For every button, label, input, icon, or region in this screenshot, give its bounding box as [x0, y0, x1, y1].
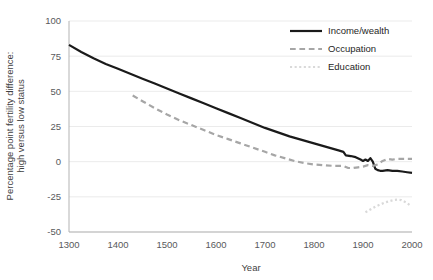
x-tick-label-1700: 1700 — [254, 239, 275, 250]
x-tick-label-2000: 2000 — [401, 239, 422, 250]
legend-label-occupation: Occupation — [328, 43, 376, 54]
y-tick-labels-group: -50-250255075100 — [45, 15, 61, 237]
y-tick-label--50: -50 — [47, 226, 61, 237]
x-tick-label-1800: 1800 — [303, 239, 324, 250]
y-tick-label-25: 25 — [50, 121, 61, 132]
legend-label-education: Education — [328, 61, 370, 72]
series-line-education — [365, 200, 411, 213]
y-tick-label--25: -25 — [47, 191, 61, 202]
x-tick-label-1300: 1300 — [58, 239, 79, 250]
y-tick-label-75: 75 — [50, 51, 61, 62]
x-tick-label-1400: 1400 — [107, 239, 128, 250]
y-axis-title-line-2: high versus low status — [15, 79, 26, 173]
y-tick-label-100: 100 — [45, 15, 61, 26]
legend-group: Income/wealthOccupationEducation — [290, 25, 389, 72]
legend-label-income-wealth: Income/wealth — [328, 25, 389, 36]
x-tick-label-1900: 1900 — [352, 239, 373, 250]
y-tick-label-50: 50 — [50, 86, 61, 97]
fertility-difference-chart: -50-250255075100 13001400150016001700180… — [0, 0, 433, 280]
x-axis-title: Year — [241, 262, 260, 273]
x-tick-label-1500: 1500 — [156, 239, 177, 250]
y-tick-label-0: 0 — [56, 156, 61, 167]
chart-canvas: -50-250255075100 13001400150016001700180… — [0, 0, 433, 280]
y-axis-title-line-1: Percentage point fertility difference: — [4, 52, 15, 201]
x-tick-label-1600: 1600 — [205, 239, 226, 250]
x-tick-labels-group: 13001400150016001700180019002000 — [58, 239, 422, 250]
